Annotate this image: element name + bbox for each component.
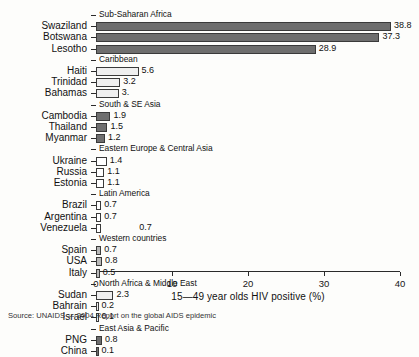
group-label: Latin America [99, 188, 150, 199]
bar-row: Botswana37.3 [96, 32, 400, 43]
category-label: USA [66, 255, 87, 266]
bar [96, 336, 102, 345]
bar [96, 213, 101, 222]
group-label: East Asia & Pacific [99, 323, 169, 334]
group-header-row: Latin America [96, 189, 400, 200]
group-header-row: South & SE Asia [96, 100, 400, 111]
bar-row: China0.1 [96, 346, 400, 357]
bar-row: Ukraine1.4 [96, 156, 400, 167]
plot-area: 010203040 Sub-Saharan AfricaSwaziland38.… [96, 10, 400, 272]
group-header-row: East Asia & Pacific [96, 324, 400, 335]
x-axis-title: 15—49 year olds HIV positive (%) [96, 291, 400, 302]
group-axis-tick [91, 239, 96, 240]
bar-row: Swaziland38.8 [96, 21, 400, 32]
group-header-row: North Africa & Middle East [96, 279, 400, 290]
group-label: Western countries [99, 233, 166, 244]
bar-value-label: 0.7 [104, 199, 117, 210]
category-label: Venezuela [40, 222, 87, 233]
bar [96, 347, 99, 356]
bar-row: Haiti5.6 [96, 66, 400, 77]
bar [96, 246, 101, 255]
group-axis-tick [91, 15, 96, 16]
category-label: Lesotho [51, 43, 87, 54]
group-axis-tick [91, 329, 96, 330]
bar [96, 201, 101, 210]
bar [96, 89, 119, 98]
bar [96, 269, 100, 278]
bar-value-label: 1.5 [110, 121, 123, 132]
bar-value-label: 1.4 [110, 155, 123, 166]
category-label: Cambodia [41, 110, 87, 121]
bar-row: Thailand1.5 [96, 122, 400, 133]
bar [96, 67, 139, 76]
bar-value-label: 1.9 [113, 110, 126, 121]
bar-row: Cambodia1.9 [96, 111, 400, 122]
bar-value-label: 3.2 [123, 76, 136, 87]
bar-row: PNG0.8 [96, 335, 400, 346]
bar [96, 134, 105, 143]
bar-value-label: 0.8 [105, 255, 118, 266]
group-label: Caribbean [99, 54, 138, 65]
bar [96, 112, 110, 121]
category-label: Spain [61, 244, 87, 255]
bar-row: Spain0.7 [96, 245, 400, 256]
bar-value-label: 37.3 [382, 31, 400, 42]
bar-value-label: 0.7 [104, 211, 117, 222]
category-label: Myanmar [45, 132, 87, 143]
group-axis-tick [91, 60, 96, 61]
group-label: North Africa & Middle East [99, 278, 197, 289]
bar [96, 123, 107, 132]
category-label: Thailand [49, 121, 87, 132]
category-label: Bahrain [53, 300, 87, 311]
category-label: Bahamas [45, 87, 87, 98]
group-header-row: Western countries [96, 234, 400, 245]
category-label: Botswana [43, 31, 87, 42]
bar-value-label: 1.2 [108, 132, 121, 143]
bar [96, 157, 107, 166]
group-axis-tick [91, 194, 96, 195]
source-note: Source: UNAIDS — 2004 Report on the glob… [8, 311, 216, 320]
bar-row: Lesotho28.9 [96, 44, 400, 55]
category-label: Italy [69, 267, 87, 278]
bar-value-label: 0.7 [104, 244, 117, 255]
bar-row: Brazil0.7 [96, 200, 400, 211]
category-label: Ukraine [53, 155, 87, 166]
x-tick-mark [400, 272, 401, 276]
group-label: Sub-Saharan Africa [99, 9, 172, 20]
group-header-row: Eastern Europe & Central Asia [96, 144, 400, 155]
group-axis-tick [91, 284, 96, 285]
bar [96, 22, 391, 31]
bar [96, 179, 104, 188]
category-label: Haiti [67, 65, 87, 76]
bar-value-label: 3. [122, 87, 130, 98]
bar [96, 302, 99, 311]
bar [96, 33, 379, 42]
category-label: PNG [65, 334, 87, 345]
bar [96, 45, 316, 54]
bar [96, 78, 120, 87]
bar-value-label: 0.5 [103, 267, 116, 278]
group-header-row: Sub-Saharan Africa [96, 10, 400, 21]
category-label: Brazil [62, 199, 87, 210]
category-label: Swaziland [41, 20, 87, 31]
bar-value-label: 0.7 [139, 222, 152, 233]
category-label: China [61, 345, 87, 356]
bar-value-label: 38.8 [394, 20, 412, 31]
group-axis-tick [91, 149, 96, 150]
bar [96, 168, 104, 177]
bar-value-label: 5.6 [142, 65, 155, 76]
group-label: South & SE Asia [99, 99, 160, 110]
bar-value-label: 1.1 [107, 177, 120, 188]
category-label: Sudan [58, 289, 87, 300]
bar-value-label: 0.1 [102, 345, 115, 356]
bar [96, 224, 101, 233]
category-label: Argentina [44, 211, 87, 222]
category-label: Trinidad [51, 76, 87, 87]
bar-value-label: 1.1 [107, 166, 120, 177]
group-label: Eastern Europe & Central Asia [99, 143, 213, 154]
bar-value-label: 0.8 [105, 334, 118, 345]
bar-row: Trinidad3.2 [96, 77, 400, 88]
bar [96, 257, 102, 266]
category-label: Estonia [54, 177, 87, 188]
